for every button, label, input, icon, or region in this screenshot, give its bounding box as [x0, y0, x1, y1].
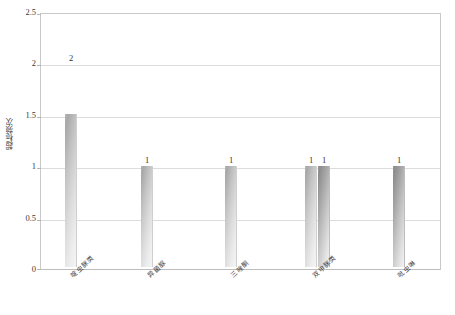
y-tickmark-0: [37, 269, 41, 270]
y-tick-label-0: 0: [16, 265, 36, 274]
y-tickmark-2.5: [37, 14, 41, 15]
y-tick-label-2.5: 2.5: [16, 8, 36, 17]
y-tick-label-1: 1: [16, 162, 36, 171]
y-tick-label-0.5: 0.5: [16, 214, 36, 223]
bar-group2-series1[interactable]: [141, 166, 153, 267]
bar-group5-series2[interactable]: [393, 166, 405, 267]
gridline-1.5: [41, 117, 440, 118]
y-tick-label-1.5: 1.5: [16, 111, 36, 120]
y-tickmark-1: [37, 168, 41, 169]
bar-chart: 超标频次 0 0.5 1 1.5 2 2.5 2: [0, 0, 455, 315]
bar-label-group5-series2: 1: [384, 156, 414, 165]
y-tickmark-2: [37, 65, 41, 66]
y-tickmark-0.5: [37, 220, 41, 221]
gridline-1: [41, 168, 440, 169]
bar-label-group1-series1: 2: [56, 54, 86, 63]
y-tickmark-1.5: [37, 117, 41, 118]
y-tick-label-2: 2: [16, 59, 36, 68]
gridline-0.5: [41, 220, 440, 221]
bar-label-group3-series1: 1: [216, 156, 246, 165]
bar-group3-series1[interactable]: [225, 166, 237, 267]
bar-group4-series1[interactable]: [305, 166, 317, 267]
x-axis-tick-labels: 啶虫脒类 异菌脲 三唑酮 双甲脒类 吡虫啉: [40, 272, 441, 315]
y-axis-tick-labels: 0 0.5 1 1.5 2 2.5: [14, 0, 36, 315]
bar-label-group4-series2: 1: [309, 156, 339, 165]
gridline-2: [41, 65, 440, 66]
plot-inner: 2 1 1 1 1 1: [41, 14, 440, 269]
bar-group1-series1[interactable]: [65, 114, 77, 267]
bar-label-group2-series1: 1: [132, 156, 162, 165]
plot-area: 2 1 1 1 1 1: [40, 13, 441, 270]
bar-group4-series2[interactable]: [318, 166, 330, 267]
